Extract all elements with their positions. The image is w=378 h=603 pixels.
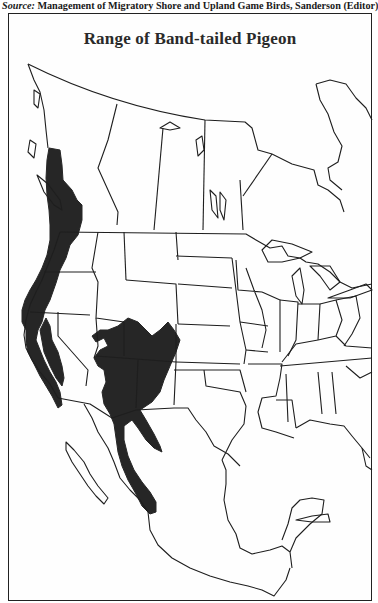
canada-north-border [28,64,344,212]
lake-michigan [292,268,304,304]
boundaries [24,64,372,596]
ohio-kentucky [282,300,342,362]
florida [362,448,372,470]
haida-gwaii [34,90,40,108]
great-slave-lake [160,122,180,130]
baja-california [66,442,108,504]
dakotas [176,232,232,288]
ontario-border [243,154,272,196]
gulf-coast [296,420,370,458]
lake-superior [262,240,312,262]
idaho-borders [92,232,124,322]
oklahoma-texas [174,370,246,406]
lake-winnipeg [210,190,226,220]
manitoba-ontario-border [240,180,243,230]
georgia-carolinas [332,366,372,414]
coastal-islands [28,140,36,158]
bc-alberta-border [98,104,118,225]
range-southwest [92,318,180,514]
tennessee [280,358,372,366]
wyoming-border [126,280,178,324]
us-canada-border [60,232,372,288]
mississippi-alabama [276,372,322,428]
mexico-gulf-coast [222,460,324,568]
lake-athabasca [196,136,204,156]
montana-border [124,232,126,280]
minnesota-wisconsin [236,260,266,348]
iowa-missouri [240,292,280,352]
hudson-bay-coast [316,80,372,190]
alberta-sask-border [154,128,163,230]
texas-coast [222,406,246,460]
sask-manitoba-border [203,120,205,230]
illinois-indiana [280,300,320,356]
nebraska-kansas [176,258,246,364]
mexico-west-coast [148,512,290,596]
